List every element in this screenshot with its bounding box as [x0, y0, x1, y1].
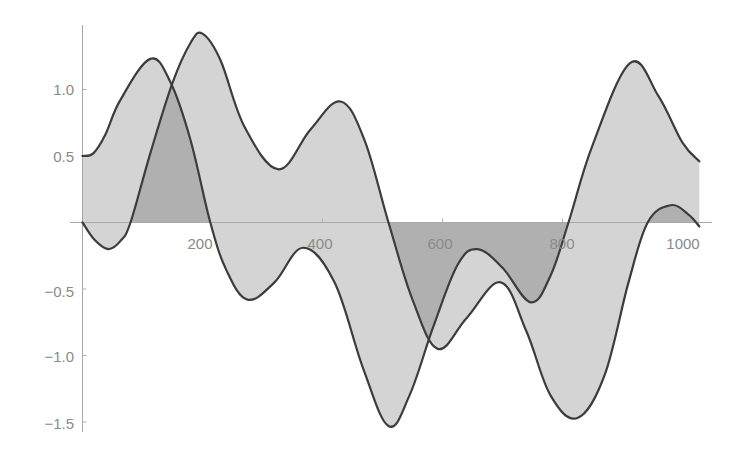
y-tick-label: −1.5 — [44, 415, 74, 432]
x-tick-label: 400 — [307, 235, 332, 252]
x-tick-label: 600 — [427, 235, 452, 252]
y-tick-label: −0.5 — [44, 283, 74, 300]
area-chart: 200 400 600 800 1000 1.0 0.5 −0.5 −1.0 −… — [0, 0, 735, 462]
x-tick-label: 1000 — [666, 235, 699, 252]
x-tick-label: 200 — [187, 235, 212, 252]
x-tick-label: 800 — [549, 235, 574, 252]
y-tick-label: 1.0 — [53, 81, 74, 98]
y-tick-label: 0.5 — [53, 148, 74, 165]
y-tick-labels: 1.0 0.5 −0.5 −1.0 −1.5 — [44, 81, 74, 432]
y-tick-label: −1.0 — [44, 348, 74, 365]
